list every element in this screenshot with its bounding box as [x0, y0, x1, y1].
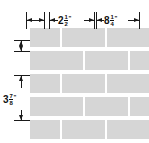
brick-course — [30, 74, 149, 93]
long-brick-whole: 8 — [104, 16, 110, 26]
long-brick-unit: " — [114, 15, 117, 21]
brick-wall-dimension-figure: 2 1 2 " 8 1 4 " 3 7 8 " — [0, 0, 149, 143]
brick — [85, 51, 128, 70]
long-brick-dim-arrow-left — [97, 18, 102, 22]
long-brick-dim-label: 8 1 4 " — [104, 14, 117, 28]
short-brick-dim-tick-right — [94, 12, 95, 29]
brick — [62, 74, 105, 93]
short-brick-denominator: 2 — [64, 20, 68, 27]
joint-dim-tick-right — [44, 12, 45, 29]
brick-height-denominator: 8 — [9, 99, 13, 106]
long-brick-dim-arrow-right — [134, 18, 139, 22]
short-brick-dim-arrow-left — [50, 18, 55, 22]
vertical-joint-tick-bottom — [14, 51, 30, 52]
brick — [62, 28, 105, 47]
short-brick-dim-label: 2 1 2 " — [58, 14, 71, 28]
brick — [130, 51, 149, 70]
brick-height-tick-bottom — [14, 120, 30, 121]
brick — [30, 97, 83, 116]
brick-height-arrow-up — [19, 76, 23, 81]
long-brick-denominator: 4 — [110, 20, 114, 27]
short-brick-unit: " — [68, 15, 71, 21]
joint-dim-arrow-right — [39, 18, 44, 22]
brick — [107, 74, 149, 93]
brick — [30, 51, 83, 70]
brick-height-unit: " — [13, 94, 16, 100]
short-brick-dim-arrow-right — [89, 18, 94, 22]
brick-wall — [30, 28, 149, 141]
short-brick-whole: 2 — [58, 16, 64, 26]
brick-course — [30, 28, 149, 47]
brick-height-dim-label: 3 7 8 " — [3, 93, 16, 107]
brick-course — [30, 120, 149, 139]
brick — [30, 28, 60, 47]
brick — [30, 74, 60, 93]
brick — [85, 97, 128, 116]
brick-height-arrow-down — [19, 115, 23, 120]
brick — [130, 97, 149, 116]
brick — [107, 120, 149, 139]
joint-dim-arrow-left — [27, 18, 32, 22]
long-brick-dim-tick-right — [139, 12, 140, 29]
brick-height-whole: 3 — [3, 95, 9, 105]
brick — [62, 120, 105, 139]
brick — [107, 28, 149, 47]
vertical-joint-arrow-down — [19, 46, 23, 51]
brick-course — [30, 51, 149, 70]
brick — [30, 120, 60, 139]
brick-course — [30, 97, 149, 116]
